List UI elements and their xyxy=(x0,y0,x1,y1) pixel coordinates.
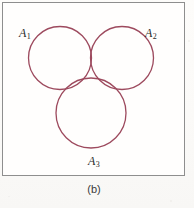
set-label-a3: A3 xyxy=(88,155,99,167)
set-label-a1-base: A xyxy=(19,26,26,40)
set-label-a1: A1 xyxy=(19,27,30,39)
figure-root: A1 A2 A3 (b) xyxy=(0,0,194,208)
set-label-a3-base: A xyxy=(88,154,95,168)
set-label-a3-subscript: 3 xyxy=(96,160,100,169)
set-label-a2: A2 xyxy=(145,27,156,39)
figure-frame: A1 A2 A3 xyxy=(2,2,185,176)
set-circle-a3 xyxy=(56,78,126,148)
set-circle-a1 xyxy=(29,27,92,90)
set-label-a1-subscript: 1 xyxy=(27,32,31,41)
scan-speckle xyxy=(8,196,10,197)
set-label-a2-subscript: 2 xyxy=(153,32,157,41)
scan-speckle xyxy=(188,40,190,42)
scan-speckle xyxy=(170,200,172,202)
set-label-a2-base: A xyxy=(145,26,152,40)
figure-caption: (b) xyxy=(0,184,188,195)
